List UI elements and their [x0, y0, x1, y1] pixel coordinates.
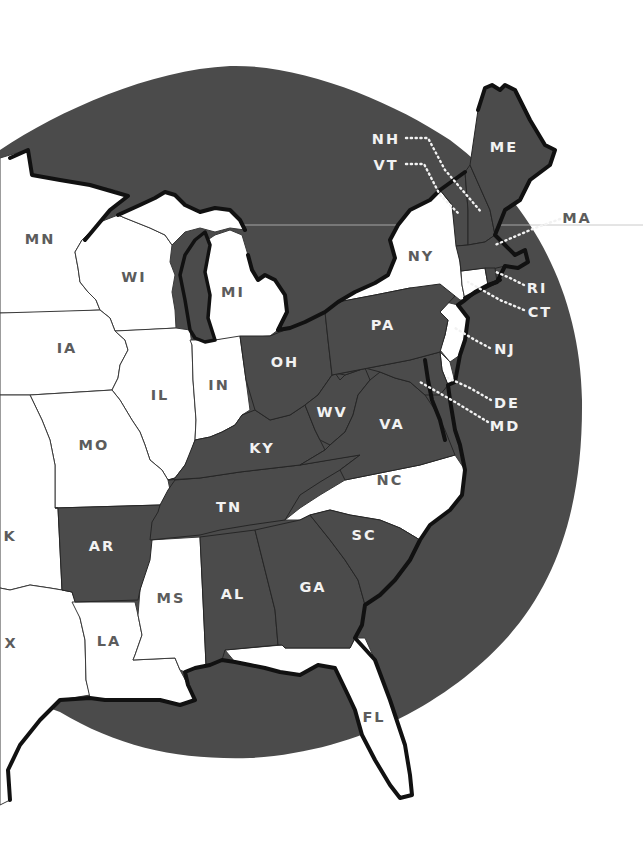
- label-md: MD: [490, 418, 520, 434]
- label-mi: MI: [221, 284, 245, 300]
- label-ia: IA: [57, 340, 78, 356]
- label-il: IL: [151, 387, 170, 403]
- label-mn: MN: [25, 231, 56, 247]
- label-nh: NH: [372, 131, 400, 147]
- label-oh: OH: [271, 354, 299, 370]
- label-nj: NJ: [494, 341, 516, 357]
- label-ny: NY: [408, 248, 435, 264]
- label-ms: MS: [157, 590, 186, 606]
- label-wi: WI: [121, 269, 146, 285]
- label-ky: KY: [249, 440, 275, 456]
- label-ri: RI: [527, 280, 548, 296]
- label-tn: TN: [216, 499, 242, 515]
- label-fl: FL: [362, 709, 385, 725]
- label-ok: K: [3, 528, 16, 544]
- label-in: IN: [208, 377, 230, 393]
- label-ct: CT: [528, 304, 553, 320]
- label-nc: NC: [377, 472, 404, 488]
- eastern-us-map: MN WI MI IA IL IN MO K X LA MS FL NC NY …: [0, 0, 643, 867]
- label-pa: PA: [371, 317, 396, 333]
- label-ga: GA: [299, 579, 326, 595]
- label-vt: VT: [373, 157, 398, 173]
- label-al: AL: [221, 586, 245, 602]
- label-tx: X: [4, 635, 17, 651]
- label-la: LA: [97, 633, 121, 649]
- label-mo: MO: [79, 437, 110, 453]
- label-de: DE: [494, 395, 520, 411]
- label-ar: AR: [89, 538, 115, 554]
- label-sc: SC: [351, 527, 376, 543]
- label-va: VA: [379, 416, 404, 432]
- state-tx[interactable]: [0, 585, 90, 805]
- label-me: ME: [490, 139, 518, 155]
- label-wv: WV: [316, 404, 347, 420]
- label-ma: MA: [562, 210, 592, 226]
